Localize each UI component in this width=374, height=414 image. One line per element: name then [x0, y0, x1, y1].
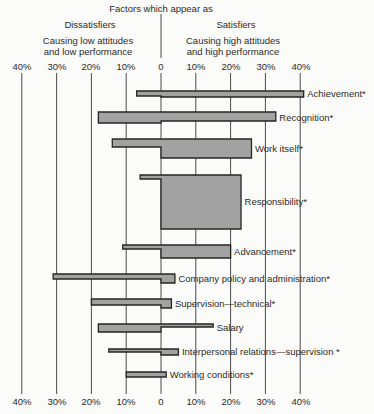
top-tick-label: 0	[158, 61, 163, 72]
factor-bar-group: Company policy and administration*	[53, 273, 330, 284]
chart-title: Factors which appear as	[109, 3, 213, 14]
factor-bar-group: Supervision—technical*	[91, 298, 275, 309]
left-group-subtitle-line1: Causing low attitudes	[43, 35, 134, 46]
bar-satisfier	[161, 139, 251, 158]
bar-dissatisfier	[112, 139, 161, 147]
factor-bar-group: Working conditions*	[126, 369, 254, 380]
bottom-tick-label: 40%	[291, 396, 311, 407]
bar-dissatisfier	[91, 299, 161, 305]
right-group-title: Satisfiers	[216, 19, 255, 30]
top-tick-label: 40%	[12, 61, 32, 72]
bar-label: Salary	[217, 322, 244, 333]
left-group-title: Dissatisfiers	[64, 19, 115, 30]
factor-bar-group: Salary	[98, 322, 244, 333]
bar-label: Responsibility*	[245, 196, 308, 207]
top-tick-label: 30%	[47, 61, 67, 72]
factor-bar-group: Recognition*	[98, 112, 333, 123]
top-tick-label: 20%	[81, 61, 101, 72]
bar-label: Interpersonal relations—supervision *	[182, 346, 340, 357]
bar-satisfier	[161, 274, 175, 283]
factor-bar-group: Responsibility*	[140, 175, 307, 229]
bar-label: Company policy and administration*	[178, 273, 330, 284]
top-tick-label: 10%	[116, 61, 136, 72]
bottom-tick-label: 20%	[221, 396, 241, 407]
factor-bar-group: Advancement*	[123, 245, 296, 258]
factor-bar-group: Interpersonal relations—supervision *	[109, 346, 340, 357]
top-tick-label: 20%	[221, 61, 241, 72]
left-group-subtitle-line2: and low performance	[44, 46, 133, 57]
bar-label: Achievement*	[307, 88, 366, 99]
bar-dissatisfier	[137, 91, 161, 96]
bottom-tick-label: 0	[158, 396, 163, 407]
top-axis: 40% 30% 20% 10% 0 10% 20% 30% 40%	[12, 61, 311, 72]
chart: Factors which appear as Dissatisfiers Ca…	[0, 0, 374, 414]
bar-satisfier	[161, 112, 276, 121]
bar-satisfier	[161, 372, 166, 377]
bar-label: Working conditions*	[170, 369, 254, 380]
bottom-tick-label: 30%	[256, 396, 276, 407]
right-group-subtitle-line1: Causing high attitudes	[186, 35, 280, 46]
factor-bar-group: Achievement*	[137, 88, 366, 99]
right-group-subtitle-line2: and high performance	[187, 46, 279, 57]
bar-label: Supervision—technical*	[175, 298, 276, 309]
bar-label: Recognition*	[279, 112, 333, 123]
bar-dissatisfier	[53, 274, 161, 279]
bar-satisfier	[161, 91, 304, 97]
bottom-tick-label: 10%	[116, 396, 136, 407]
bottom-tick-label: 40%	[12, 396, 32, 407]
bar-satisfier	[161, 175, 241, 229]
factor-bar-group: Work itself*	[112, 139, 303, 158]
bottom-tick-label: 20%	[81, 396, 101, 407]
bar-satisfier	[161, 349, 178, 355]
bar-label: Advancement*	[234, 246, 296, 257]
bar-dissatisfier	[98, 112, 161, 123]
top-tick-label: 40%	[291, 61, 311, 72]
bar-label: Work itself*	[255, 143, 303, 154]
bar-satisfier	[161, 299, 171, 308]
top-tick-label: 30%	[256, 61, 276, 72]
bottom-tick-label: 10%	[186, 396, 206, 407]
bar-satisfier	[161, 245, 231, 258]
top-tick-label: 10%	[186, 61, 206, 72]
bars: Achievement*Recognition*Work itself*Resp…	[53, 88, 366, 380]
bar-dissatisfier	[126, 372, 161, 377]
bar-dissatisfier	[98, 324, 161, 332]
bottom-tick-label: 30%	[47, 396, 67, 407]
bottom-axis: 40% 30% 20% 10% 0 10% 20% 30% 40%	[12, 396, 311, 407]
